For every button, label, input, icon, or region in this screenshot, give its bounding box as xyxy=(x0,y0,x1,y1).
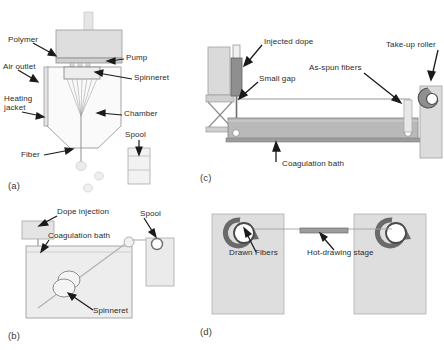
label-small-gap: Small gap xyxy=(259,74,295,83)
label-air-outlet: Air outlet xyxy=(3,62,36,71)
label-chamber: Chamber xyxy=(124,109,158,118)
label-coagulation-bath-b: Coagulation bath xyxy=(48,231,110,240)
hot-drawing-stage-bar xyxy=(300,228,348,233)
panel-b-wet-spinning: Dope injection Coagulation bath Spinnere… xyxy=(0,196,196,350)
spinneret-block xyxy=(64,67,100,79)
label-hot-drawing-stage: Hot-drawing stage xyxy=(307,248,374,257)
panel-a-melt-spinning: Polymer Air outlet Heating jacket Pump S… xyxy=(0,0,196,196)
label-heating-jacket-line2: jacket xyxy=(4,104,32,113)
panel-c-dry-jet-wet-spinning: Injected dope Small gap As-spun fibers T… xyxy=(196,0,444,196)
bath-roller-left xyxy=(233,130,240,137)
droplet-two xyxy=(95,172,104,180)
figure-root: Polymer Air outlet Heating jacket Pump S… xyxy=(0,0,444,350)
label-fiber: Fiber xyxy=(21,150,40,159)
right-roller-hub xyxy=(386,223,406,243)
label-polymer: Polymer xyxy=(8,35,38,44)
label-drawn-fibers: Drawn Fibers xyxy=(229,248,278,257)
panel-label-b: (b) xyxy=(8,330,20,341)
panel-d-vector xyxy=(196,196,444,350)
panel-b-vector xyxy=(0,196,196,350)
droplet-one xyxy=(76,162,86,171)
bath-floor xyxy=(226,138,420,142)
panel-label-d: (d) xyxy=(200,326,212,337)
syringe-barrel xyxy=(231,58,242,96)
spool-reel xyxy=(152,239,163,250)
label-as-spun-fibers: As-spun fibers xyxy=(309,63,362,72)
exit-post xyxy=(404,100,412,132)
label-heating-jacket: Heating jacket xyxy=(4,95,32,113)
syringe-plunger xyxy=(233,45,240,59)
label-injected-dope: Injected dope xyxy=(264,37,313,46)
panel-d-hot-drawing: Drawn Fibers Hot-drawing stage (d) xyxy=(196,196,444,350)
label-spinneret: Spinneret xyxy=(134,73,169,82)
panel-label-a: (a) xyxy=(8,180,20,191)
label-dope-injection: Dope injection xyxy=(57,207,109,216)
label-spool-b: Spool xyxy=(140,209,161,218)
left-roller-hub xyxy=(234,223,254,243)
label-pump: Pump xyxy=(126,53,147,62)
lift-platform xyxy=(206,95,234,102)
droplet-three xyxy=(84,184,93,192)
pump-port-left xyxy=(70,63,74,67)
support-column xyxy=(208,47,230,95)
pump-port-right xyxy=(86,63,90,67)
label-spool: Spool xyxy=(125,130,146,139)
polymer-reservoir xyxy=(56,30,122,58)
label-spinneret-b: Spinneret xyxy=(93,306,128,315)
panel-label-c: (c) xyxy=(200,172,212,183)
guide-pulley xyxy=(124,237,134,247)
label-coagulation-bath-c: Coagulation bath xyxy=(282,159,344,168)
pump-port-mid xyxy=(78,63,82,67)
take-up-roller-hub xyxy=(427,94,438,105)
label-take-up-roller: Take-up roller xyxy=(386,40,436,49)
